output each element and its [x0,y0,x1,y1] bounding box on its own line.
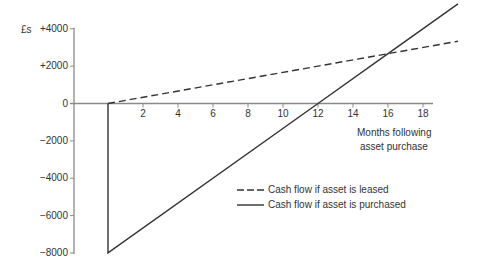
leased-line [108,41,458,103]
x-tick-label: 2 [133,108,153,120]
x-tick-label: 16 [378,108,398,120]
y-tick-label: 0 [8,98,68,110]
legend-label-purchased: Cash flow if asset is purchased [268,199,406,211]
x-axis-title-line1: Months following [357,127,431,139]
x-tick-label: 14 [343,108,363,120]
x-tick-label: 18 [413,108,433,120]
x-tick-label: 6 [203,108,223,120]
y-tick-label: −8000 [8,247,68,259]
x-tick-label: 8 [238,108,258,120]
y-tick-label: −6000 [8,210,68,222]
y-tick-label: +2000 [8,60,68,72]
y-tick-label: +4000 [8,23,68,35]
y-tick-label: −4000 [8,172,68,184]
x-axis-title-line2: asset purchase [360,141,428,153]
legend-samples [237,190,264,205]
x-tick-label: 10 [273,108,293,120]
x-tick-label: 4 [168,108,188,120]
x-tick-label: 12 [308,108,328,120]
legend-label-leased: Cash flow if asset is leased [268,184,389,196]
y-tick-label: −2000 [8,135,68,147]
y-axis-unit-label: £s [21,24,32,36]
